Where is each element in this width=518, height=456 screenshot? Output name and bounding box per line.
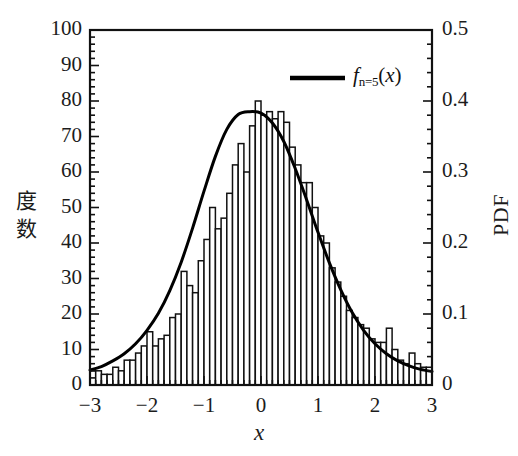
histogram-bar bbox=[233, 165, 239, 385]
histogram-bar bbox=[261, 115, 267, 385]
y-tick-label-right: 0.2 bbox=[442, 229, 502, 254]
y-tick-label-left: 100 bbox=[26, 16, 82, 41]
y-tick-label-left: 90 bbox=[26, 52, 82, 77]
y-tick-label-left: 50 bbox=[26, 194, 82, 219]
histogram-bar bbox=[295, 165, 301, 385]
x-tick-label: 2 bbox=[345, 393, 405, 418]
histogram-bar bbox=[255, 101, 261, 385]
x-tick-label: −1 bbox=[174, 393, 234, 418]
histogram-bar bbox=[107, 374, 113, 385]
histogram-bar bbox=[130, 360, 136, 385]
x-tick-label: −3 bbox=[60, 393, 120, 418]
histogram-bar bbox=[198, 261, 204, 385]
x-tick-label: 0 bbox=[231, 393, 291, 418]
histogram-bar bbox=[250, 126, 256, 385]
histogram-bar bbox=[392, 350, 398, 386]
y-tick-label-left: 70 bbox=[26, 123, 82, 148]
y-tick-label-left: 80 bbox=[26, 87, 82, 112]
histogram-bar bbox=[318, 236, 324, 385]
histogram-bar bbox=[170, 318, 176, 385]
histogram-bar bbox=[267, 112, 273, 385]
histogram-bar bbox=[238, 144, 244, 385]
histogram-bar bbox=[329, 268, 335, 385]
histogram-bar bbox=[284, 122, 290, 385]
y-tick-label-left: 40 bbox=[26, 229, 82, 254]
histogram-bar bbox=[341, 296, 347, 385]
histogram-bar bbox=[158, 339, 164, 385]
histogram-bar bbox=[278, 112, 284, 385]
histogram-bar bbox=[181, 271, 187, 385]
figure-histogram-pdf: 度 数 PDF x fn=5(x) 0102030405060708090100… bbox=[0, 0, 518, 456]
y-tick-label-right: 0.4 bbox=[442, 87, 502, 112]
histogram-bar bbox=[290, 147, 296, 385]
histogram-bar bbox=[210, 208, 216, 386]
x-axis-label: x bbox=[0, 420, 518, 446]
histogram-bar bbox=[153, 346, 159, 385]
histogram-bar bbox=[164, 335, 170, 385]
histogram-bar bbox=[187, 286, 193, 385]
histogram-bar bbox=[369, 339, 375, 385]
x-tick-label: 3 bbox=[402, 393, 462, 418]
histogram-bar bbox=[119, 371, 125, 385]
histogram-bar bbox=[96, 371, 102, 385]
histogram-bar bbox=[141, 346, 147, 385]
histogram-bar bbox=[124, 360, 130, 385]
histogram-bar bbox=[193, 293, 199, 385]
histogram-bar bbox=[272, 119, 278, 385]
y-tick-label-left: 10 bbox=[26, 336, 82, 361]
y-tick-label-right: 0.5 bbox=[442, 16, 502, 41]
histogram-bar bbox=[347, 310, 353, 385]
legend-fn-subscript: n=5 bbox=[359, 74, 378, 89]
histogram-bar bbox=[215, 229, 221, 385]
histogram-bar bbox=[301, 183, 307, 385]
x-tick-label: 1 bbox=[288, 393, 348, 418]
y-tick-label-left: 20 bbox=[26, 300, 82, 325]
histogram-bar bbox=[147, 332, 153, 385]
legend-entry-label: fn=5(x) bbox=[353, 63, 402, 90]
y-tick-label-left: 30 bbox=[26, 265, 82, 290]
x-tick-label: −2 bbox=[117, 393, 177, 418]
histogram-bar bbox=[221, 218, 227, 385]
y-tick-label-right: 0.1 bbox=[442, 300, 502, 325]
legend-fn-arg: (x) bbox=[378, 63, 401, 87]
histogram-bar bbox=[204, 239, 210, 385]
histogram-bar bbox=[227, 193, 233, 385]
histogram-bar bbox=[352, 318, 358, 385]
histogram-bar bbox=[176, 314, 182, 385]
histogram-bar bbox=[244, 172, 250, 385]
histogram-bar bbox=[358, 325, 364, 385]
histogram-bar bbox=[113, 367, 119, 385]
y-tick-label-right: 0.3 bbox=[442, 158, 502, 183]
y-tick-label-left: 60 bbox=[26, 158, 82, 183]
histogram-bar bbox=[335, 282, 341, 385]
histogram-bar bbox=[101, 374, 107, 385]
histogram-bar bbox=[136, 353, 142, 385]
